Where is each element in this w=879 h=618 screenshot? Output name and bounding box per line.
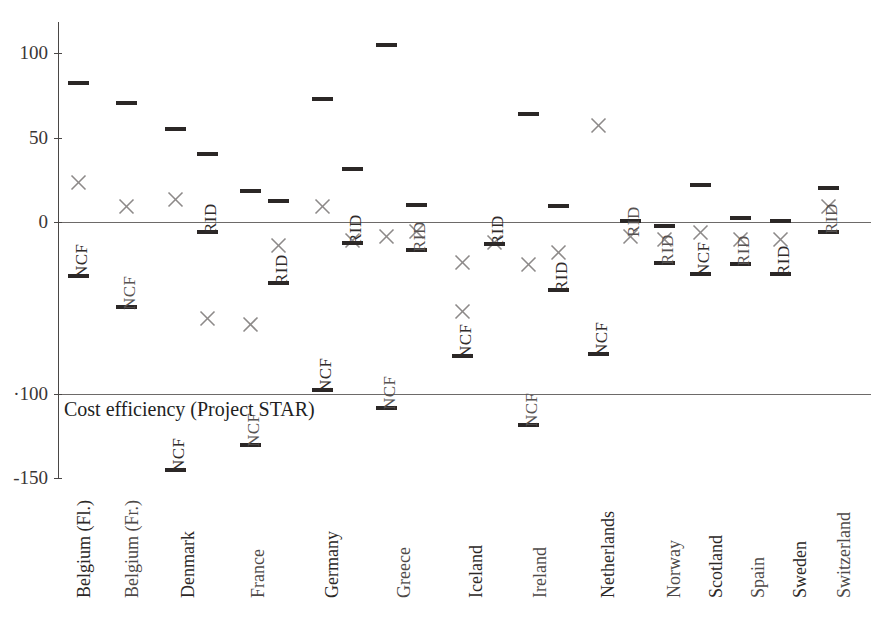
marker-cross-denmark-rid — [199, 310, 216, 327]
label-ncf-scotland: NCF — [694, 241, 714, 276]
zero-reference-line — [58, 222, 871, 223]
label-rid-greece: RID — [410, 221, 430, 252]
y-tick-100 — [54, 53, 62, 54]
y-tick-label-100: 100 — [0, 42, 48, 64]
x-label-belgium-fr: Belgium (Fr.) — [122, 500, 143, 598]
marker-cross-ireland-1 — [520, 256, 537, 273]
label-ncf-france: NCF — [244, 412, 264, 447]
marker-cross-denmark-1 — [167, 191, 184, 208]
x-label-germany: Germany — [322, 531, 343, 598]
label-ncf-netherlands: NCF — [592, 321, 612, 356]
label-ncf-belgium-fr: NCF — [120, 275, 140, 310]
x-label-norway: Norway — [664, 540, 685, 598]
label-rid-germany: RID — [346, 214, 366, 245]
y-tick-label-minus150: -150 — [0, 467, 48, 489]
marker-dash-denmark-1 — [165, 127, 186, 131]
label-rid-netherlands: RID — [624, 206, 644, 237]
marker-dash-france-rid-1 — [268, 199, 289, 203]
marker-cross-germany-1 — [314, 198, 331, 215]
y-tick-minus150 — [54, 478, 62, 479]
label-ncf-iceland: NCF — [456, 323, 476, 358]
x-label-belgium-fl: Belgium (Fl.) — [74, 500, 95, 598]
marker-dash-denmark-rid-1 — [197, 152, 218, 156]
label-rid-spain: RID — [734, 235, 754, 266]
minus100-reference-line — [58, 394, 871, 395]
label-ncf-greece: NCF — [380, 375, 400, 410]
marker-cross-netherlands-1 — [590, 117, 607, 134]
label-rid-france: RID — [272, 254, 292, 285]
x-label-sweden: Sweden — [790, 541, 811, 598]
marker-dash-sweden-1 — [770, 219, 791, 223]
marker-cross-iceland-2 — [454, 303, 471, 320]
y-tick-50 — [54, 138, 62, 139]
x-label-netherlands: Netherlands — [598, 511, 619, 598]
x-label-greece: Greece — [394, 547, 415, 598]
label-ncf-germany: NCF — [316, 357, 336, 392]
y-tick-minus100 — [54, 394, 62, 395]
y-tick-label-50: 50 — [0, 127, 48, 149]
marker-dash-norway-1 — [654, 224, 675, 228]
chart-caption: Cost efficiency (Project STAR) — [64, 398, 315, 421]
marker-dash-belgium-fl-1 — [68, 81, 89, 85]
marker-dash-germany-1 — [312, 97, 333, 101]
marker-dash-switzerland-1 — [818, 186, 839, 190]
x-label-ireland: Ireland — [530, 547, 551, 598]
label-ncf-denmark: NCF — [169, 437, 189, 472]
label-rid-denmark: RID — [201, 203, 221, 234]
y-tick-label-minus100: ·100 — [0, 383, 48, 405]
x-label-iceland: Iceland — [466, 545, 487, 598]
label-rid-ireland: RID — [552, 261, 572, 292]
label-rid-norway: RID — [658, 234, 678, 265]
marker-dash-belgium-fr-1 — [116, 101, 137, 105]
marker-cross-greece-1 — [378, 228, 395, 245]
marker-cross-iceland-1 — [454, 254, 471, 271]
label-ncf-ireland: NCF — [522, 392, 542, 427]
y-tick-label-0: 0 — [0, 211, 48, 233]
marker-dash-greece-rid-1 — [406, 203, 427, 207]
x-label-denmark: Denmark — [178, 531, 199, 598]
label-rid-switzerland: RID — [822, 203, 842, 234]
cost-efficiency-chart: 100 50 0 ·100 -150 Cost efficiency (Proj… — [0, 0, 879, 618]
marker-dash-scotland-1 — [690, 183, 711, 187]
marker-dash-spain-1 — [730, 216, 751, 220]
marker-cross-ireland-rid — [550, 244, 567, 261]
label-rid-sweden: RID — [774, 245, 794, 276]
marker-dash-germany-rid-1 — [342, 167, 363, 171]
marker-cross-belgium-fr-1 — [118, 198, 135, 215]
y-axis-line — [58, 22, 59, 478]
y-tick-0 — [54, 222, 62, 223]
marker-cross-france-rid — [270, 237, 287, 254]
x-label-scotland: Scotland — [706, 535, 727, 598]
x-label-spain: Spain — [748, 557, 769, 598]
marker-dash-ireland-rid-1 — [548, 204, 569, 208]
marker-dash-greece-1 — [376, 43, 397, 47]
x-label-france: France — [248, 549, 269, 598]
marker-cross-belgium-fl-1 — [70, 174, 87, 191]
label-ncf-belgium-fl: NCF — [72, 243, 92, 278]
marker-dash-ireland-1 — [518, 112, 539, 116]
x-label-switzerland: Switzerland — [834, 512, 855, 598]
marker-dash-france-1 — [240, 189, 261, 193]
marker-cross-scotland-1 — [692, 224, 709, 241]
marker-cross-france-1 — [242, 316, 259, 333]
label-rid-iceland: RID — [488, 215, 508, 246]
